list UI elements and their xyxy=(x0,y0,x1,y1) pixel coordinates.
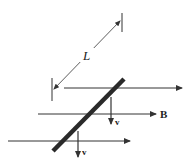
diagram-canvas: L B v v xyxy=(0,0,191,162)
magnetic-field-lines: B xyxy=(8,88,182,141)
velocity-label-lower: v xyxy=(82,147,87,157)
conducting-rod xyxy=(53,79,124,151)
field-label: B xyxy=(160,108,168,120)
velocity-label-upper: v xyxy=(115,117,120,127)
length-label: L xyxy=(82,48,90,63)
